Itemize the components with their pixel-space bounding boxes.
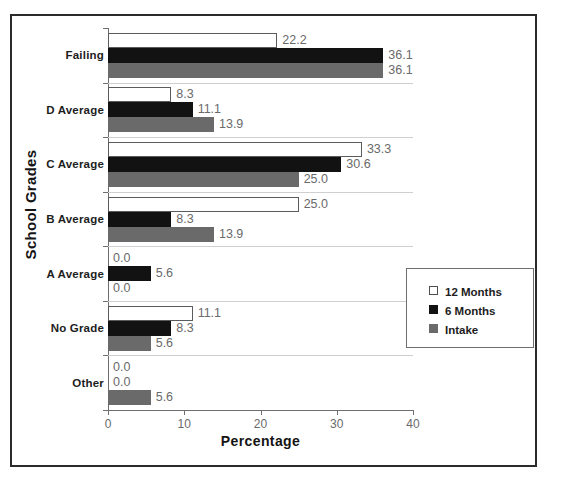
category-label-failing: Failing — [8, 49, 104, 61]
bar-value-label: 5.6 — [156, 390, 173, 405]
bar-value-label: 8.3 — [176, 212, 193, 227]
bar-no-grade-intake — [108, 336, 151, 351]
category-label-no-grade: No Grade — [8, 322, 104, 334]
category-label-other: Other — [8, 377, 104, 389]
bar-other-intake — [108, 390, 151, 405]
legend-label: 6 Months — [445, 305, 495, 317]
bar-d-average-intake — [108, 117, 214, 132]
bar-failing-intake — [108, 63, 383, 78]
bar-value-label: 25.0 — [304, 172, 328, 187]
bar-b-average-intake — [108, 227, 214, 242]
bar-value-label: 0.0 — [113, 375, 130, 390]
legend-item-intake: Intake — [429, 321, 478, 337]
bar-value-label: 13.9 — [219, 227, 243, 242]
bar-value-label: 8.3 — [176, 321, 193, 336]
x-tick-label-0: 0 — [105, 417, 112, 431]
bar-value-label: 22.2 — [282, 33, 306, 48]
bar-value-label: 0.0 — [113, 281, 130, 296]
legend-label: 12 Months — [445, 286, 502, 298]
bar-value-label: 0.0 — [113, 360, 130, 375]
bar-value-label: 5.6 — [156, 266, 173, 281]
bar-value-label: 5.6 — [156, 336, 173, 351]
x-tick-30 — [337, 410, 338, 415]
y-axis-category-labels: FailingD AverageC AverageB AverageA Aver… — [0, 0, 104, 480]
bar-failing-6-months — [108, 48, 383, 63]
legend-item-6-months: 6 Months — [429, 302, 495, 318]
x-tick-0 — [108, 410, 109, 415]
category-separator — [108, 301, 413, 302]
bar-value-label: 13.9 — [219, 117, 243, 132]
category-separator — [108, 355, 413, 356]
x-tick-10 — [184, 410, 185, 415]
x-tick-40 — [413, 410, 414, 415]
bar-c-average-intake — [108, 172, 299, 187]
x-tick-label-40: 40 — [406, 417, 419, 431]
bar-a-average-6-months — [108, 266, 151, 281]
x-axis-title: Percentage — [108, 433, 413, 449]
bar-value-label: 36.1 — [388, 63, 412, 78]
bar-value-label: 0.0 — [113, 251, 130, 266]
bar-value-label: 33.3 — [367, 142, 391, 157]
gray-square-icon — [429, 324, 438, 333]
figure-canvas: 010203040 FailingD AverageC AverageB Ave… — [0, 0, 564, 480]
bar-value-label: 11.1 — [198, 306, 221, 321]
legend-label: Intake — [445, 324, 478, 336]
bar-c-average-6-months — [108, 157, 341, 172]
bar-no-grade-6-months — [108, 321, 171, 336]
bar-d-average-6-months — [108, 102, 193, 117]
bar-b-average-12-months — [108, 197, 299, 212]
bar-no-grade-12-months — [108, 306, 193, 321]
black-square-icon — [429, 305, 438, 314]
bar-value-label: 36.1 — [388, 48, 412, 63]
chart-legend: 12 Months6 MonthsIntake — [406, 268, 534, 348]
y-axis-title: School Grades — [22, 115, 39, 295]
x-tick-20 — [261, 410, 262, 415]
bar-b-average-6-months — [108, 212, 171, 227]
bar-value-label: 30.6 — [346, 157, 370, 172]
white-square-icon — [429, 286, 438, 295]
category-separator — [108, 83, 413, 84]
bar-c-average-12-months — [108, 142, 362, 157]
legend-item-12-months: 12 Months — [429, 283, 502, 299]
category-separator — [108, 246, 413, 247]
bar-d-average-12-months — [108, 87, 171, 102]
bar-failing-12-months — [108, 33, 277, 48]
category-separator — [108, 137, 413, 138]
x-tick-label-30: 30 — [330, 417, 343, 431]
x-tick-label-10: 10 — [178, 417, 191, 431]
bar-value-label: 8.3 — [176, 87, 193, 102]
x-tick-label-20: 20 — [254, 417, 267, 431]
category-separator — [108, 192, 413, 193]
bar-value-label: 11.1 — [198, 102, 221, 117]
bar-value-label: 25.0 — [304, 197, 328, 212]
